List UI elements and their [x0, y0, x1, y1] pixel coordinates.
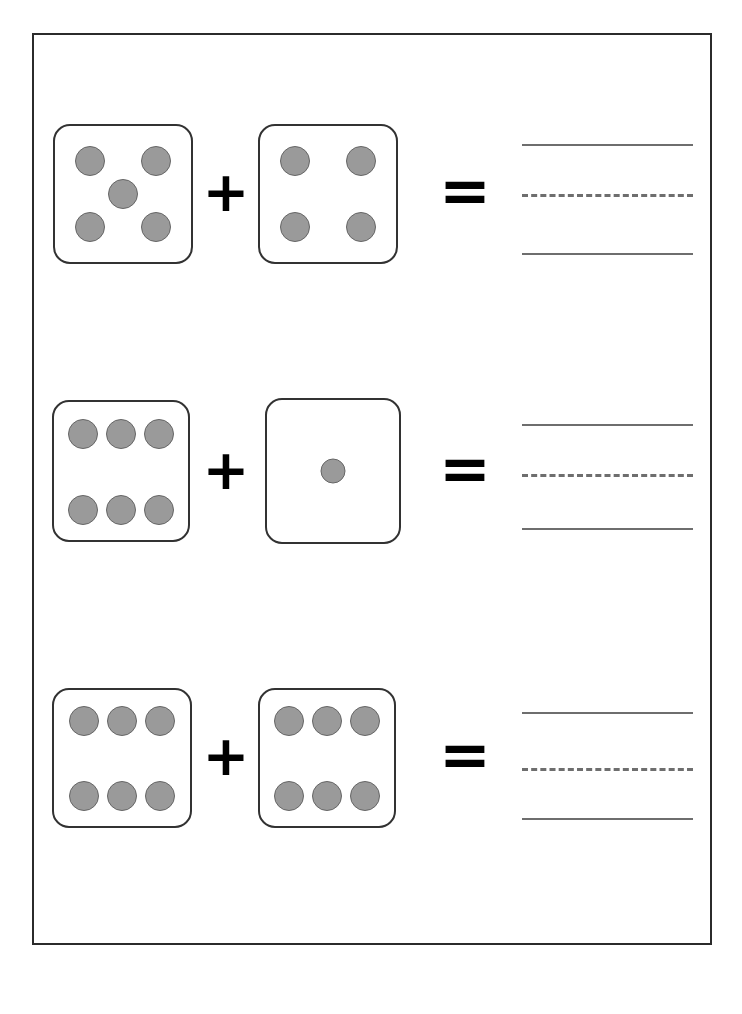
answer-input-area[interactable]: [522, 682, 693, 832]
worksheet-page: +=+=+=: [0, 0, 742, 1014]
plus-operator: +: [196, 728, 256, 784]
die-pip: [350, 706, 380, 736]
die-pip: [312, 781, 342, 811]
die-pip: [321, 459, 346, 484]
die-pip: [274, 781, 304, 811]
die-pip: [141, 212, 171, 242]
die-pip: [68, 419, 98, 449]
die-a-6: [52, 400, 190, 542]
die-pip: [346, 146, 376, 176]
problem-row: +=: [0, 394, 742, 544]
die-pip: [144, 419, 174, 449]
die-b-4: [258, 124, 398, 264]
die-pip: [274, 706, 304, 736]
die-a-5: [53, 124, 193, 264]
die-pip: [107, 781, 137, 811]
die-pip: [141, 146, 171, 176]
problem-row: +=: [0, 118, 742, 268]
die-pip: [280, 212, 310, 242]
answer-line-dashed-middle: [522, 474, 693, 477]
answer-line-top: [522, 424, 693, 426]
equals-operator: =: [432, 438, 498, 500]
answer-line-dashed-middle: [522, 768, 693, 771]
die-pip: [346, 212, 376, 242]
equals-operator: =: [432, 724, 498, 786]
die-pip: [106, 495, 136, 525]
die-pip: [145, 781, 175, 811]
die-pip: [350, 781, 380, 811]
die-pip: [108, 179, 138, 209]
equals-operator: =: [432, 160, 498, 222]
answer-line-baseline: [522, 253, 693, 255]
die-pip: [68, 495, 98, 525]
die-pip: [280, 146, 310, 176]
die-pip: [144, 495, 174, 525]
answer-input-area[interactable]: [522, 394, 693, 544]
answer-input-area[interactable]: [522, 118, 693, 268]
die-pip: [75, 146, 105, 176]
answer-line-top: [522, 712, 693, 714]
answer-line-dashed-middle: [522, 194, 693, 197]
die-pip: [106, 419, 136, 449]
die-a-6: [52, 688, 192, 828]
answer-line-top: [522, 144, 693, 146]
die-b-1: [265, 398, 401, 544]
answer-line-baseline: [522, 528, 693, 530]
die-pip: [312, 706, 342, 736]
die-pip: [75, 212, 105, 242]
plus-operator: +: [196, 164, 256, 220]
die-pip: [69, 706, 99, 736]
problem-row: +=: [0, 682, 742, 832]
plus-operator: +: [196, 442, 256, 498]
answer-line-baseline: [522, 818, 693, 820]
die-pip: [69, 781, 99, 811]
die-pip: [107, 706, 137, 736]
die-pip: [145, 706, 175, 736]
die-b-6: [258, 688, 396, 828]
